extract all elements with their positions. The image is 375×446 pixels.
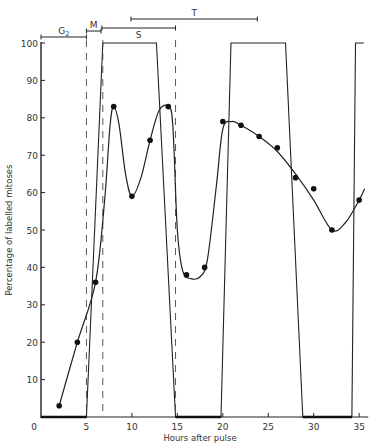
fitted-curve	[59, 105, 364, 406]
y-tick-label: 20	[27, 338, 39, 348]
data-point	[129, 194, 135, 200]
x-tick-label: 25	[263, 422, 274, 432]
x-tick-label: 30	[308, 422, 320, 432]
data-point	[111, 104, 117, 110]
data-point	[184, 272, 190, 278]
y-tick-label: 50	[27, 226, 39, 236]
theoretical-square-wave	[41, 43, 364, 417]
data-point	[147, 137, 153, 143]
y-tick-label: 0	[31, 422, 37, 432]
data-point	[329, 227, 335, 233]
data-point	[165, 104, 171, 110]
x-axis-title: Hours after pulse	[163, 433, 236, 443]
phase-dashed-lines	[86, 40, 175, 417]
y-tick-label: 100	[21, 39, 38, 49]
data-point	[311, 186, 317, 192]
y-tick-label: 60	[27, 188, 39, 198]
phase-brackets: G2MST	[41, 8, 257, 40]
y-axis-title: Percentage of labelled mitoses	[4, 164, 14, 295]
data-point	[238, 122, 244, 128]
x-tick-label: 10	[126, 422, 138, 432]
y-tick-label: 40	[27, 263, 39, 273]
fitted-curve-path	[59, 105, 364, 406]
data-point	[220, 119, 226, 125]
y-tick-label: 70	[27, 151, 39, 161]
phase-label-m: M	[90, 20, 98, 30]
phase-label-t: T	[190, 8, 197, 18]
x-tick-label: 15	[172, 422, 183, 432]
x-tick-label: 35	[353, 422, 364, 432]
data-point	[75, 339, 81, 345]
data-point	[293, 175, 299, 181]
data-point	[56, 403, 62, 409]
x-tick-label: 20	[217, 422, 229, 432]
square-wave-line	[41, 43, 364, 417]
y-tick-label: 10	[27, 375, 39, 385]
x-tick-label: 5	[84, 422, 90, 432]
data-point	[202, 265, 208, 271]
phase-label-s: S	[136, 30, 142, 40]
data-point	[275, 145, 281, 151]
labelled-mitoses-chart: 01020304050607080901005101520253035 G2MS…	[0, 0, 375, 446]
axes: 01020304050607080901005101520253035	[21, 39, 368, 433]
y-tick-label: 80	[27, 113, 39, 123]
data-point	[93, 280, 99, 286]
data-points	[56, 104, 362, 409]
phase-label-g: G2	[58, 26, 69, 38]
y-tick-label: 90	[27, 76, 39, 86]
data-point	[256, 134, 262, 140]
data-point	[356, 197, 362, 203]
y-tick-label: 30	[27, 300, 39, 310]
